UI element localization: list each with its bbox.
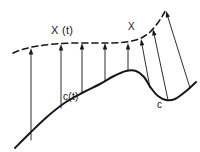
vector-field-curve-X [13, 9, 166, 53]
label-curve: c [157, 100, 162, 110]
vector-arrow-head [140, 39, 144, 46]
label-vector-field: X [128, 22, 135, 32]
vector-field-figure: X (t) c(t) X c [0, 0, 200, 152]
vector-arrow-head [103, 43, 107, 50]
vector-arrow-shaft [168, 17, 190, 88]
vector-arrow-head [29, 48, 33, 55]
vector-arrow-head [126, 43, 130, 50]
vector-arrow-head [166, 11, 170, 18]
vector-arrow-head [80, 43, 84, 50]
vector-arrow-head [59, 44, 63, 51]
figure-canvas [0, 0, 200, 152]
label-curve-at-t: c(t) [63, 92, 79, 102]
label-vector-field-at-t: X (t) [51, 25, 73, 36]
vector-arrow-shaft [154, 35, 168, 100]
base-curve-c [15, 70, 196, 148]
